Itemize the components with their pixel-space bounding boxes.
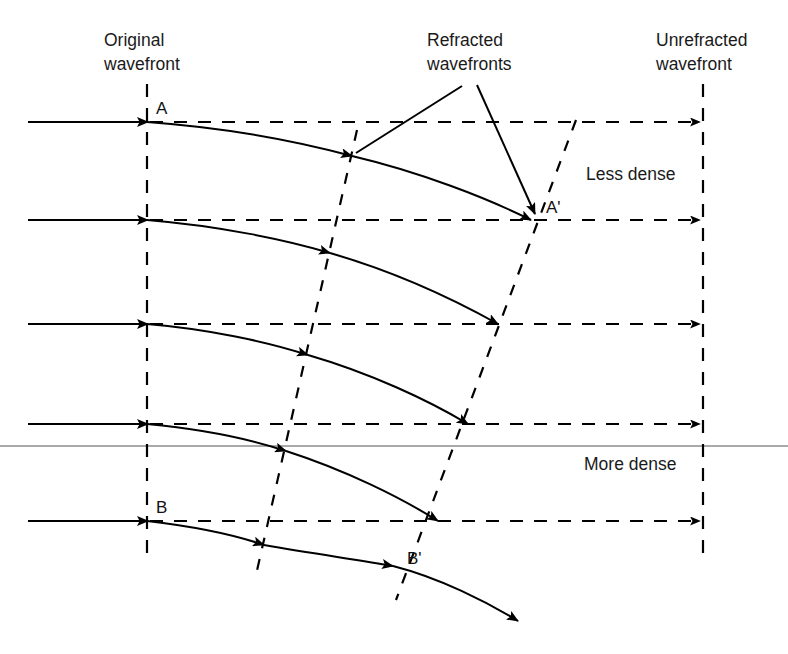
original-wavefront-label-line2: wavefront (103, 54, 180, 74)
refraction-diagram: Original wavefront Refracted wavefronts … (0, 0, 788, 654)
refracted-ray-3 (147, 324, 468, 424)
incident-rays (28, 122, 148, 521)
point-b-label: B (156, 498, 167, 517)
original-wavefront-label-line1: Original (104, 30, 164, 50)
refracted-wavefront-line-2 (396, 120, 576, 600)
unrefracted-wavefront-label-line1: Unrefracted (656, 30, 747, 50)
refracted-wavefronts-label-line2: wavefronts (426, 54, 512, 74)
point-b-prime-label: B' (407, 549, 422, 568)
refracted-ray-5 (147, 521, 518, 621)
refracted-wavefront-line-1 (256, 130, 357, 575)
wave-refraction-svg: Original wavefront Refracted wavefronts … (0, 0, 788, 654)
more-dense-label: More dense (584, 454, 676, 474)
refracted-ray-2 (147, 220, 498, 324)
unrefracted-wavefront-label-line2: wavefront (655, 54, 732, 74)
point-a-prime-label: A' (546, 198, 561, 217)
refracted-ray-4 (147, 424, 438, 521)
less-dense-label: Less dense (586, 164, 676, 184)
refracted-wavefronts-label-line1: Refracted (427, 30, 503, 50)
refracted-wavefronts-leaders (356, 85, 535, 214)
point-a-label: A (156, 99, 168, 118)
refracted-ray-1 (147, 122, 531, 220)
